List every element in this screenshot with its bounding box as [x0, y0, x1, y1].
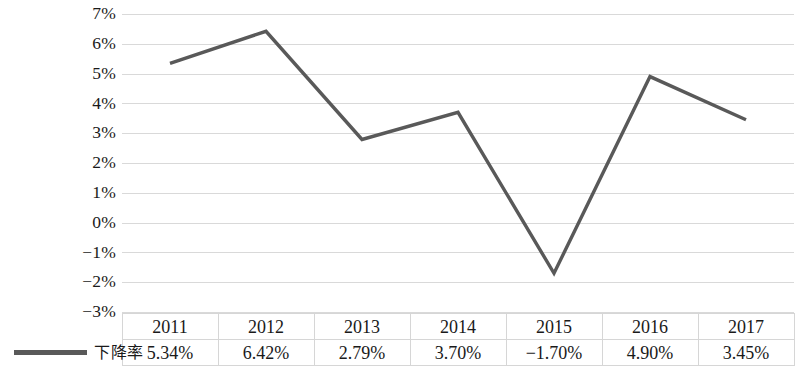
table-corner-cell — [0, 314, 122, 340]
legend-label: 下降率 — [94, 345, 144, 361]
table-value-cell: 2.79% — [314, 340, 410, 366]
table-header-cell: 2015 — [506, 314, 602, 340]
y-axis: 7% 6% 5% 4% 3% 2% 1% 0% −1% −2% −3% — [0, 0, 116, 312]
series-line-decline-rate — [122, 14, 794, 312]
y-tick-label: 2% — [0, 154, 116, 172]
table-value-cell: 3.45% — [698, 340, 794, 366]
series-polyline — [170, 31, 746, 273]
table-value-cell: 4.90% — [602, 340, 698, 366]
table-header-cell: 2013 — [314, 314, 410, 340]
table-value-cell: 3.70% — [410, 340, 506, 366]
y-tick-label: 6% — [0, 35, 116, 53]
y-tick-label: 5% — [0, 65, 116, 83]
table-header-cell: 2016 — [602, 314, 698, 340]
data-table: 2011 2012 2013 2014 2015 2016 2017 下降率 5… — [0, 313, 795, 366]
y-tick-label: 7% — [0, 5, 116, 23]
legend-line-swatch-icon — [14, 350, 87, 355]
y-tick-label: −2% — [0, 273, 116, 291]
table-value-cell: 6.42% — [218, 340, 314, 366]
table-header-cell: 2012 — [218, 314, 314, 340]
table-row-values: 下降率 5.34% 6.42% 2.79% 3.70% −1.70% 4.90%… — [0, 340, 794, 366]
table-header-cell: 2017 — [698, 314, 794, 340]
y-tick-label: 4% — [0, 95, 116, 113]
y-tick-label: 0% — [0, 214, 116, 232]
plot-area — [122, 14, 794, 312]
y-tick-label: 1% — [0, 184, 116, 202]
y-tick-label: 3% — [0, 124, 116, 142]
table-header-cell: 2014 — [410, 314, 506, 340]
table-row-header: 2011 2012 2013 2014 2015 2016 2017 — [0, 314, 794, 340]
legend-entry-decline-rate: 下降率 — [0, 340, 122, 366]
table-header-cell: 2011 — [122, 314, 218, 340]
table-value-cell: −1.70% — [506, 340, 602, 366]
y-tick-label: −1% — [0, 244, 116, 262]
